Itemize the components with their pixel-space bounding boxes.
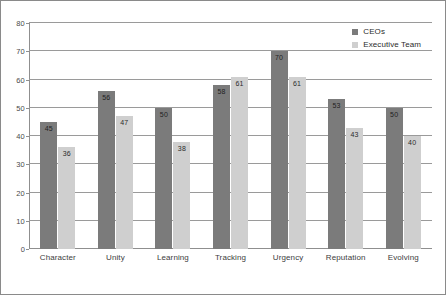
y-axis-tick-label: 80 [16, 19, 29, 28]
x-axis-tick-labels: CharacterUnityLearningTrackingUrgencyRep… [29, 253, 432, 267]
bar-value-label: 58 [217, 88, 225, 95]
legend-item[interactable]: CEOs [352, 27, 421, 36]
bar[interactable]: 58 [213, 85, 230, 249]
x-axis-tick-label: Character [29, 253, 87, 267]
bar[interactable]: 50 [386, 108, 403, 249]
legend-item-label: CEOs [363, 27, 385, 36]
bar[interactable]: 47 [116, 116, 133, 249]
y-axis-tick-label: 60 [16, 75, 29, 84]
legend-swatch-icon [352, 29, 358, 35]
bar-value-label: 50 [390, 111, 398, 118]
bar[interactable]: 38 [173, 142, 190, 249]
y-axis-tick-label: 10 [16, 216, 29, 225]
bar-group: 7061 [271, 23, 306, 249]
bar[interactable]: 50 [155, 108, 172, 249]
bar-group: 5647 [98, 23, 133, 249]
legend-item[interactable]: Executive Team [352, 40, 421, 49]
x-axis-tick-label: Tracking [202, 253, 260, 267]
bar-group: 5040 [386, 23, 421, 249]
y-axis-tick-label: 20 [16, 188, 29, 197]
bar-value-label: 50 [160, 111, 168, 118]
bar-group: 4536 [40, 23, 75, 249]
bar-value-label: 36 [63, 150, 71, 157]
bar-value-label: 45 [45, 125, 53, 132]
bar-value-label: 61 [293, 80, 301, 87]
x-axis-tick-label: Urgency [259, 253, 317, 267]
bar-value-label: 56 [102, 94, 110, 101]
x-axis-tick-label: Evolving [374, 253, 432, 267]
y-axis-tick-label: 0 [21, 245, 29, 254]
bar[interactable]: 43 [346, 128, 363, 249]
x-axis-tick-label: Reputation [317, 253, 375, 267]
y-axis-tick-label: 30 [16, 160, 29, 169]
bar-groups: 4536564750385861706153435040 [29, 23, 432, 249]
bar-value-label: 38 [178, 145, 186, 152]
bar-group: 5343 [328, 23, 363, 249]
bar[interactable]: 36 [58, 147, 75, 249]
bar[interactable]: 53 [328, 99, 345, 249]
bar[interactable]: 56 [98, 91, 115, 249]
y-axis-tick-label: 70 [16, 47, 29, 56]
bar[interactable]: 61 [289, 77, 306, 249]
x-axis-tick-label: Learning [144, 253, 202, 267]
bar-group: 5038 [155, 23, 190, 249]
bar-group: 5861 [213, 23, 248, 249]
chart-legend: CEOsExecutive Team [352, 27, 421, 49]
bar[interactable]: 45 [40, 122, 57, 249]
legend-swatch-icon [352, 42, 358, 48]
bar-chart-figure: 01020304050607080 4536564750385861706153… [0, 0, 446, 295]
y-axis-tick-label: 40 [16, 132, 29, 141]
bar-value-label: 47 [120, 119, 128, 126]
bar[interactable]: 40 [404, 136, 421, 249]
bar-value-label: 70 [275, 54, 283, 61]
bar-value-label: 61 [235, 80, 243, 87]
bar[interactable]: 61 [231, 77, 248, 249]
bar-value-label: 53 [333, 102, 341, 109]
bar-value-label: 40 [408, 139, 416, 146]
bar[interactable]: 70 [271, 51, 288, 249]
plot-area: 01020304050607080 4536564750385861706153… [29, 23, 432, 249]
bar-value-label: 43 [351, 131, 359, 138]
legend-item-label: Executive Team [363, 40, 421, 49]
y-axis-tick-label: 50 [16, 103, 29, 112]
x-axis-tick-label: Unity [87, 253, 145, 267]
